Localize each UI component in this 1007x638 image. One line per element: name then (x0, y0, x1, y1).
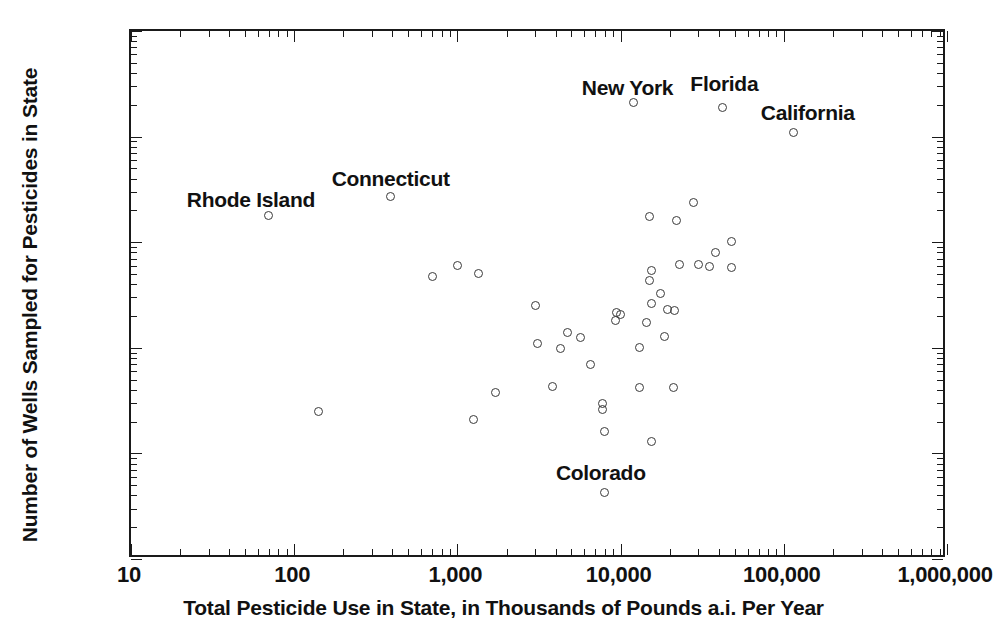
y-axis-tick (131, 266, 137, 267)
x-axis-tick (209, 549, 210, 555)
x-axis-tick (776, 549, 777, 555)
y-axis-tick-right (937, 47, 943, 48)
x-axis-tick (862, 549, 863, 555)
data-point (556, 344, 565, 353)
data-point (491, 388, 500, 397)
x-axis-tick (735, 549, 736, 555)
data-point (647, 299, 656, 308)
point-label-florida: Florida (690, 72, 758, 96)
y-axis-tick (131, 364, 137, 365)
x-axis-tick (621, 544, 622, 555)
y-axis-tick (131, 358, 137, 359)
x-axis-tick-label: 1,000 (429, 562, 483, 588)
x-axis-tick (209, 31, 210, 37)
y-axis-tick-right (932, 348, 943, 349)
y-axis-tick-right (937, 54, 943, 55)
data-point (611, 316, 620, 325)
data-point (469, 415, 478, 424)
data-point (635, 383, 644, 392)
data-point (635, 343, 644, 352)
y-axis-tick (131, 192, 137, 193)
y-axis-tick-right (932, 31, 943, 32)
x-axis-tick-top (605, 31, 606, 37)
x-axis-tick (535, 549, 536, 555)
x-axis-tick (605, 549, 606, 555)
x-axis-tick (595, 549, 596, 555)
x-axis-tick-top (571, 31, 572, 37)
y-axis-tick (131, 31, 142, 32)
y-axis-tick-right (937, 147, 943, 148)
y-axis-tick-right (937, 470, 943, 471)
y-axis-tick (131, 464, 137, 465)
y-axis-tick-right (937, 422, 943, 423)
x-axis-tick-top (947, 31, 948, 42)
x-axis-tick-top (392, 31, 393, 37)
y-axis-tick (131, 247, 137, 248)
x-axis-tick (507, 549, 508, 555)
y-axis-tick-right (937, 105, 943, 106)
y-axis-tick (131, 453, 142, 454)
y-axis-tick (131, 316, 137, 317)
x-axis-tick (584, 549, 585, 555)
y-axis-tick-right (937, 353, 943, 354)
y-axis-tick (131, 403, 137, 404)
y-axis-tick (131, 137, 142, 138)
x-axis-tick (947, 544, 948, 555)
x-axis-tick (229, 31, 230, 37)
y-axis-tick-right (937, 358, 943, 359)
y-axis-tick-right (937, 252, 943, 253)
point-label-colorado: Colorado (556, 461, 646, 485)
data-point (533, 339, 542, 348)
x-axis-tick-top (408, 31, 409, 37)
data-point (647, 266, 656, 275)
x-axis-tick-top (595, 31, 596, 37)
y-axis-tick (131, 179, 137, 180)
data-point (531, 301, 540, 310)
x-axis-tick-top (507, 31, 508, 37)
x-axis-tick (180, 31, 181, 37)
x-axis-tick (245, 549, 246, 555)
x-axis-tick (911, 549, 912, 555)
x-axis-tick-top (768, 31, 769, 37)
x-axis-tick-top (670, 31, 671, 37)
y-axis-tick-right (937, 297, 943, 298)
data-point (656, 289, 665, 298)
x-axis-tick-top (535, 31, 536, 37)
x-axis-tick-top (776, 31, 777, 37)
x-axis-tick (343, 549, 344, 555)
y-axis-tick (131, 210, 137, 211)
x-axis-tick (372, 549, 373, 555)
data-point (314, 407, 323, 416)
data-point (453, 261, 462, 270)
y-axis-tick-right (937, 284, 943, 285)
y-axis-tick-right (937, 458, 943, 459)
data-point (586, 360, 595, 369)
x-axis-tick-top (450, 31, 451, 37)
y-axis-tick (131, 147, 137, 148)
y-axis-tick-right (937, 364, 943, 365)
data-point (598, 405, 607, 414)
x-axis-tick-top (719, 31, 720, 37)
x-axis-tick (392, 549, 393, 555)
x-axis-tick-top (898, 31, 899, 37)
data-point (642, 318, 651, 327)
x-axis-tick (131, 544, 132, 555)
y-axis-tick-right (937, 160, 943, 161)
y-axis-tick (131, 73, 137, 74)
data-point (563, 328, 572, 337)
point-label-california: California (761, 101, 855, 125)
x-axis-tick (882, 549, 883, 555)
x-axis-tick-top (698, 31, 699, 37)
y-axis-tick-right (937, 274, 943, 275)
x-axis-tick (287, 31, 288, 37)
x-axis-tick-top (457, 31, 458, 42)
x-axis-tick-top (294, 31, 295, 42)
x-axis-title: Total Pesticide Use in State, in Thousan… (0, 596, 1007, 620)
x-axis-tick (278, 549, 279, 555)
y-axis-tick-right (937, 41, 943, 42)
y-axis-tick (131, 297, 137, 298)
y-axis-tick (131, 259, 137, 260)
y-axis-tick (131, 86, 137, 87)
x-axis-tick (258, 31, 259, 37)
data-point (711, 248, 720, 257)
